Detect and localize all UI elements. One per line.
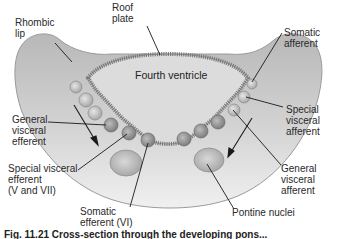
nucleus-left-1 [70, 81, 82, 93]
label-roof-plate: Roof plate [112, 2, 134, 24]
label-somatic-afferent: Somatic afferent [284, 27, 320, 49]
label-pontine-nuclei: Pontine nuclei [232, 207, 295, 218]
label-general-visceral-afferent: General visceral afferent [281, 163, 317, 196]
label-special-visceral-efferent: Special visceral efferent (V and VII) [8, 163, 77, 196]
nucleus-left-2 [79, 93, 93, 107]
pontine-nucleus-right [194, 148, 224, 172]
pontine-nucleus-left [110, 150, 142, 176]
figure-caption: Fig. 11.21 Cross-section through the dev… [4, 229, 267, 239]
nucleus-right-b3 [211, 115, 225, 129]
nucleus-gve-left [104, 118, 118, 132]
label-rhombic-lip: Rhombic lip [15, 17, 54, 39]
nucleus-sa-right [247, 79, 257, 89]
nucleus-left-3 [88, 106, 102, 120]
label-special-visceral-afferent: Special visceral afferent [286, 104, 320, 137]
nucleus-right-b1 [177, 132, 191, 146]
label-general-visceral-efferent: General visceral efferent [12, 114, 48, 147]
nucleus-sve-left [122, 126, 136, 140]
nucleus-sva-right [238, 91, 250, 103]
nucleus-right-b2 [194, 124, 208, 138]
nucleus-gva-right [228, 104, 240, 116]
label-fourth-ventricle: Fourth ventricle [135, 69, 207, 81]
nucleus-se-left [141, 133, 155, 147]
label-somatic-efferent: Somatic efferent (VI) [80, 206, 133, 228]
leader-roof-plate [147, 26, 160, 55]
